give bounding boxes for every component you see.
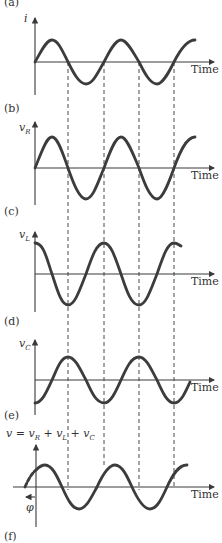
y-axis-label: vR xyxy=(19,121,31,136)
rlc-phasor-waveform-figure: (a) i Time (b) vR Time (c) vL Time (d) v… xyxy=(0,0,222,543)
panel-label-d: (d) xyxy=(4,315,20,328)
panel-label-e: (e) xyxy=(4,409,19,422)
panel-total-voltage: v = vR + vL + vC Time φ xyxy=(6,427,219,527)
y-axis-label: i xyxy=(24,12,28,25)
panel-resistor-voltage: vR Time xyxy=(19,121,219,205)
panel-current: i Time xyxy=(24,12,219,95)
panel-inductor-voltage: vL Time xyxy=(19,228,219,312)
panel-capacitor-voltage: vC Time xyxy=(19,337,219,415)
panel-label-a: (a) xyxy=(4,0,19,9)
x-axis-label: Time xyxy=(191,488,219,501)
total-voltage-dashed-start xyxy=(25,470,36,487)
y-axis-label: vL xyxy=(19,228,30,243)
phase-symbol: φ xyxy=(26,501,34,514)
x-axis-label: Time xyxy=(191,275,219,288)
sum-formula: v = vR + vL + vC xyxy=(6,427,95,442)
panel-label-f: (f) xyxy=(4,530,17,543)
x-axis-label: Time xyxy=(191,63,219,76)
x-axis-label: Time xyxy=(191,381,219,394)
panel-label-c: (c) xyxy=(4,205,19,218)
panel-label-b: (b) xyxy=(4,102,20,115)
y-axis-label: vC xyxy=(19,337,31,352)
x-axis-label: Time xyxy=(191,169,219,182)
